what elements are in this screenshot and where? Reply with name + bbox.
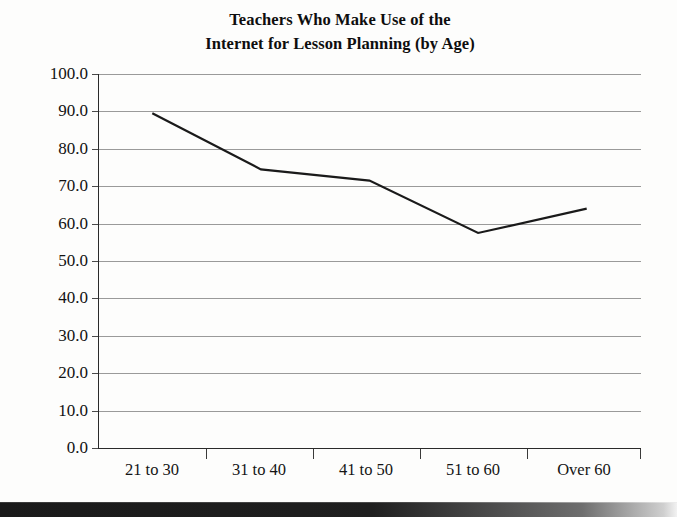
gridline-40 [98,298,641,299]
gridline-60 [98,224,641,225]
chart-page: Teachers Who Make Use of the Internet fo… [0,0,677,517]
x-axis-tick-1 [206,449,207,459]
y-axis-label-30: 30.0 [10,326,88,346]
y-axis-label-100: 100.0 [10,64,88,84]
x-axis-line [98,448,641,449]
y-axis-label-80: 80.0 [10,139,88,159]
y-axis-label-40: 40.0 [10,288,88,308]
y-axis-line [98,74,99,449]
x-axis-label-41-to-50: 41 to 50 [306,460,426,480]
y-axis-label-0: 0.0 [10,438,88,458]
y-axis-label-20: 20.0 [10,363,88,383]
gridline-70 [98,186,641,187]
x-axis-tick-2 [313,449,314,459]
gridline-50 [98,261,641,262]
y-axis-labels: 100.0 90.0 80.0 70.0 60.0 50.0 40.0 30.0… [0,0,88,517]
y-axis-label-70: 70.0 [10,176,88,196]
gridline-100 [98,74,641,75]
gridline-20 [98,373,641,374]
x-axis-label-31-to-40: 31 to 40 [199,460,319,480]
y-axis-label-50: 50.0 [10,251,88,271]
gridline-10 [98,411,641,412]
x-axis-tick-4 [527,449,528,459]
gridline-30 [98,336,641,337]
x-axis-tick-5 [640,449,641,459]
gridline-90 [98,111,641,112]
x-axis-label-21-to-30: 21 to 30 [92,460,212,480]
y-axis-label-90: 90.0 [10,101,88,121]
x-axis-label-51-to-60: 51 to 60 [413,460,533,480]
chart-title-line-2: Internet for Lesson Planning (by Age) [120,32,560,56]
x-axis-label-over-60: Over 60 [524,460,644,480]
plot-area [98,74,641,448]
x-axis-tick-3 [420,449,421,459]
chart-title: Teachers Who Make Use of the Internet fo… [120,8,560,56]
chart-title-line-1: Teachers Who Make Use of the [120,8,560,32]
y-axis-label-10: 10.0 [10,401,88,421]
gridline-80 [98,149,641,150]
scan-artifact-band [0,503,677,517]
y-axis-label-60: 60.0 [10,214,88,234]
